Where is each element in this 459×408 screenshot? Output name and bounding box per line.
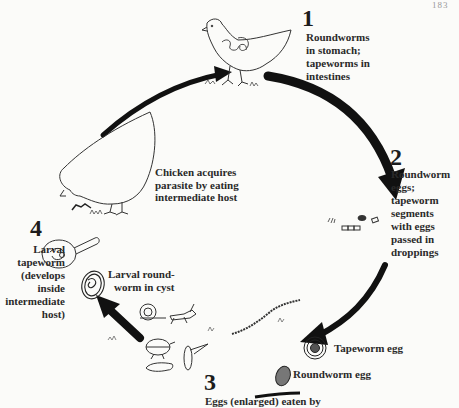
step-2-number: 2 xyxy=(390,145,402,169)
roundworm-egg-icon xyxy=(273,364,293,388)
step-4-number: 4 xyxy=(30,216,42,240)
step-1-number: 1 xyxy=(302,6,314,30)
step-1-description: Roundworms in stomach; tapeworms in inte… xyxy=(306,31,370,83)
step-3-description: Eggs (enlarged) eaten by xyxy=(205,395,321,408)
tapeworm-egg-label: Tapeworm egg xyxy=(334,342,403,355)
fly-icon xyxy=(184,344,208,370)
step-4-description: Larval tapeworm (develops inside interme… xyxy=(0,243,65,321)
earthworm-icon xyxy=(232,300,300,334)
beetle-icon xyxy=(146,339,175,359)
snail-icon xyxy=(140,304,166,320)
step-2-description: Roundworm eggs; tapeworm segments with e… xyxy=(391,168,450,259)
arrow-step3-to-step4 xyxy=(96,295,140,338)
grasshopper-icon xyxy=(170,304,196,324)
slug-icon xyxy=(146,363,173,372)
larval-roundworm-note: Larval round- worm in cyst xyxy=(108,268,175,293)
larval-roundworm-cyst-icon xyxy=(79,269,107,302)
tapeworm-egg-icon xyxy=(304,337,326,359)
step-3-number: 3 xyxy=(204,370,216,394)
chicken-acquires-note: Chicken acquires parasite by eating inte… xyxy=(155,166,239,204)
droppings-icon xyxy=(328,216,379,231)
chicken-pecking-icon xyxy=(60,112,155,215)
arrow-step4-to-step1 xyxy=(103,66,232,135)
arrow-step1-to-step2 xyxy=(268,76,405,200)
arrow-step2-to-step3 xyxy=(300,265,385,345)
roundworm-egg-label: Roundworm egg xyxy=(293,368,371,381)
